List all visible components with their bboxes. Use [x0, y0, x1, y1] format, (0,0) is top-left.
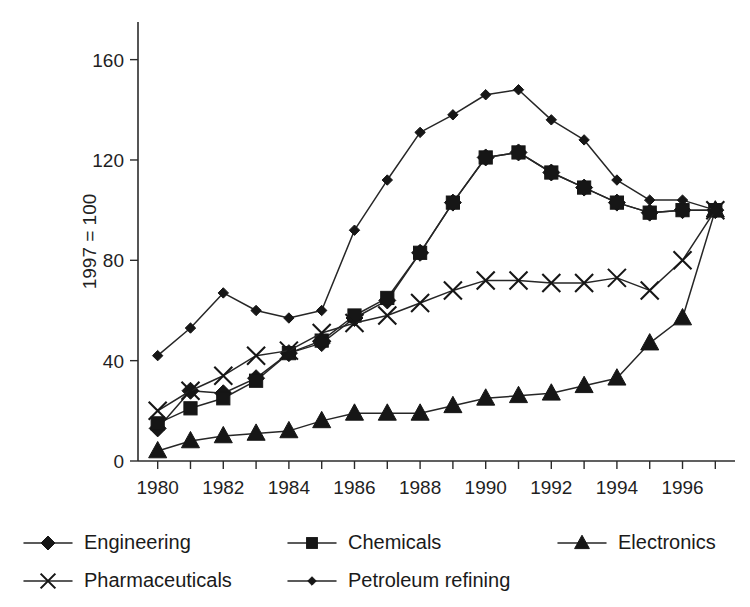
marker-square: [512, 146, 525, 159]
legend-label: Chemicals: [338, 531, 441, 554]
marker-triangle: [214, 426, 232, 442]
legend-item-petroleum-refining[interactable]: Petroleum refining: [286, 569, 556, 592]
legend-row: PharmaceuticalsPetroleum refining: [22, 561, 728, 599]
legend-swatch-diamond-icon: [22, 531, 74, 553]
marker-small-diamond: [284, 313, 294, 323]
legend-label: Engineering: [74, 531, 191, 554]
x-tick-label: 1984: [268, 477, 311, 498]
y-axis-title: 1997 = 100: [79, 194, 100, 290]
marker-square: [307, 538, 318, 549]
marker-triangle: [345, 404, 363, 420]
marker-small-diamond: [645, 195, 655, 205]
x-tick-label: 1996: [661, 477, 703, 498]
marker-square: [479, 151, 492, 164]
marker-small-diamond: [448, 110, 458, 120]
series-line: [158, 152, 716, 428]
marker-square: [381, 291, 394, 304]
line-chart: 1997 = 100 04080120160 19801982198419861…: [0, 0, 750, 607]
marker-small-diamond: [349, 225, 359, 235]
legend-item-engineering[interactable]: Engineering: [22, 531, 286, 554]
legend-label: Pharmaceuticals: [74, 569, 232, 592]
series-line: [158, 152, 716, 423]
legend-item-pharmaceuticals[interactable]: Pharmaceuticals: [22, 569, 286, 592]
marker-square: [610, 196, 623, 209]
legend-swatch-small-diamond-icon: [286, 569, 338, 591]
marker-small-diamond: [382, 175, 392, 185]
x-axis-tick-labels: 198019821984198619881990199219941996: [137, 477, 704, 498]
marker-triangle: [673, 309, 691, 325]
marker-x: [247, 347, 265, 365]
marker-triangle: [575, 535, 590, 548]
legend-row: EngineeringChemicalsElectronics: [22, 523, 728, 561]
legend-item-electronics[interactable]: Electronics: [556, 531, 726, 554]
marker-triangle: [477, 389, 495, 405]
marker-x: [214, 367, 232, 385]
marker-x: [674, 251, 692, 269]
x-tick-label: 1982: [202, 477, 244, 498]
marker-small-diamond: [481, 90, 491, 100]
chart-legend: EngineeringChemicalsElectronicsPharmaceu…: [22, 523, 728, 599]
marker-square: [348, 309, 361, 322]
legend-swatch-x-icon: [22, 569, 74, 591]
marker-square: [578, 181, 591, 194]
legend-swatch-square-icon: [286, 531, 338, 553]
series-line: [158, 210, 716, 411]
marker-small-diamond: [415, 127, 425, 137]
y-tick-label: 0: [113, 451, 124, 472]
data-series-group: [149, 85, 725, 458]
marker-square: [643, 206, 656, 219]
x-tick-label: 1990: [465, 477, 507, 498]
legend-label: Electronics: [608, 531, 716, 554]
marker-small-diamond: [251, 305, 261, 315]
marker-square: [249, 374, 262, 387]
x-tick-label: 1992: [530, 477, 572, 498]
x-tick-label: 1980: [137, 477, 179, 498]
series-line: [158, 210, 716, 451]
series-pharmaceuticals: [149, 201, 725, 420]
y-tick-label: 80: [103, 250, 124, 271]
y-axis-title-text: 1997 = 100: [79, 194, 100, 290]
marker-square: [217, 392, 230, 405]
y-tick-label: 40: [103, 351, 124, 372]
y-tick-label: 160: [92, 50, 124, 71]
series-electronics: [149, 201, 725, 458]
marker-small-diamond: [308, 577, 317, 586]
marker-x: [444, 281, 462, 299]
marker-square: [151, 417, 164, 430]
marker-triangle: [378, 404, 396, 420]
marker-triangle: [641, 334, 659, 350]
marker-diamond: [41, 536, 55, 550]
marker-x: [608, 269, 626, 287]
marker-triangle: [509, 386, 527, 402]
marker-x: [411, 294, 429, 312]
marker-square: [413, 246, 426, 259]
marker-square: [446, 196, 459, 209]
x-tick-label: 1986: [333, 477, 375, 498]
marker-square: [184, 402, 197, 415]
marker-small-diamond: [316, 305, 326, 315]
y-tick-label: 120: [92, 150, 124, 171]
x-tick-label: 1988: [399, 477, 441, 498]
series-petroleum-refining: [152, 85, 720, 361]
legend-swatch-triangle-icon: [556, 531, 608, 553]
chart-figure: 1997 = 100 04080120160 19801982198419861…: [0, 0, 750, 607]
marker-square: [545, 166, 558, 179]
marker-triangle: [247, 424, 265, 440]
marker-x: [641, 281, 659, 299]
legend-item-chemicals[interactable]: Chemicals: [286, 531, 556, 554]
series-line: [158, 90, 716, 356]
legend-label: Petroleum refining: [338, 569, 510, 592]
series-engineering: [149, 144, 724, 437]
x-tick-label: 1994: [596, 477, 639, 498]
